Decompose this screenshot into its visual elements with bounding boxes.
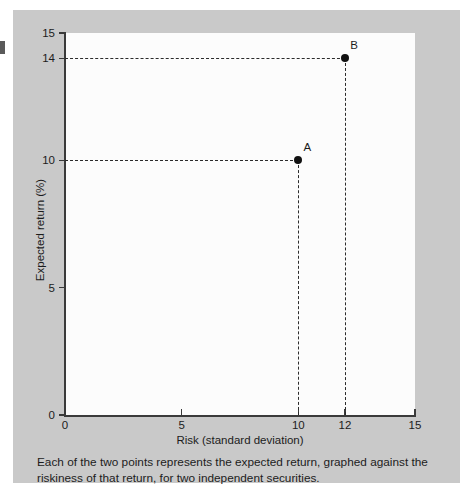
guide-line-horizontal xyxy=(65,58,345,59)
page-edge-artifact xyxy=(0,41,5,54)
x-tick-label: 0 xyxy=(62,419,68,431)
data-point-label: B xyxy=(350,39,358,51)
x-tick-label: 5 xyxy=(178,419,184,431)
data-point-marker xyxy=(341,54,349,62)
x-tick-mark xyxy=(414,409,416,416)
y-tick-mark xyxy=(59,414,66,416)
x-axis-line xyxy=(64,415,416,417)
y-tick-label: 0 xyxy=(33,409,55,421)
x-tick-label: 12 xyxy=(339,419,352,431)
guide-line-horizontal xyxy=(65,160,298,161)
y-tick-mark xyxy=(59,287,66,289)
guide-line-vertical xyxy=(298,160,299,415)
y-axis-line xyxy=(64,32,66,416)
guide-line-vertical xyxy=(345,58,346,415)
y-tick-label: 15 xyxy=(33,27,55,39)
y-axis-title: Expected return (%) xyxy=(34,140,46,320)
x-tick-label: 15 xyxy=(409,419,422,431)
y-tick-mark xyxy=(59,32,66,34)
x-tick-mark xyxy=(181,409,183,416)
plot-area xyxy=(65,33,415,415)
figure-caption: Each of the two points represents the ex… xyxy=(37,455,447,486)
data-point-label: A xyxy=(303,141,311,153)
data-point-marker xyxy=(294,156,302,164)
x-axis-title: Risk (standard deviation) xyxy=(65,434,415,446)
y-tick-label: 14 xyxy=(33,52,55,64)
x-tick-label: 10 xyxy=(292,419,305,431)
figure-card: 05101215 05101415 AB Risk (standard devi… xyxy=(13,10,460,483)
